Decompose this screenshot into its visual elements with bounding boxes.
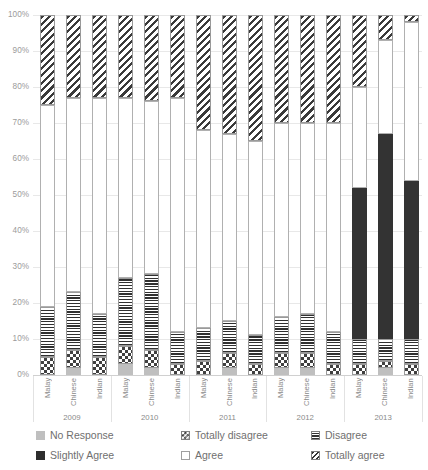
bar-column[interactable] [326, 15, 341, 375]
legend-item[interactable]: Slightly Agree [36, 449, 181, 461]
bar-segment[interactable] [378, 361, 393, 368]
y-axis-tick-label: 30% [0, 263, 29, 271]
bar-column[interactable] [248, 15, 263, 375]
bar-segment[interactable] [118, 98, 133, 278]
group-label: 2010 [111, 413, 189, 422]
bar-segment[interactable] [66, 292, 81, 350]
bar-segment[interactable] [144, 101, 159, 274]
legend-item[interactable]: Agree [181, 449, 311, 461]
bar-segment[interactable] [222, 321, 237, 353]
legend-label: Disagree [325, 429, 367, 441]
bar-segment[interactable] [170, 15, 185, 98]
chart-title [0, 0, 428, 4]
bar-segment[interactable] [378, 134, 393, 339]
bar-column[interactable] [352, 15, 367, 375]
bar-segment[interactable] [144, 15, 159, 101]
bar-segment[interactable] [170, 332, 185, 364]
bar-segment[interactable] [222, 134, 237, 321]
bar-segment[interactable] [196, 328, 211, 360]
bar-column[interactable] [300, 15, 315, 375]
bar-column[interactable] [404, 15, 419, 375]
bar-column[interactable] [196, 15, 211, 375]
bar-column[interactable] [66, 15, 81, 375]
bar-segment[interactable] [378, 15, 393, 40]
bar-column[interactable] [144, 15, 159, 375]
bar-segment[interactable] [170, 364, 185, 375]
bar-segment[interactable] [300, 353, 315, 367]
bar-segment[interactable] [326, 332, 341, 364]
bar-segment[interactable] [300, 368, 315, 375]
bar-segment[interactable] [40, 357, 55, 375]
bar-column[interactable] [378, 15, 393, 375]
bar-column[interactable] [118, 15, 133, 375]
bar-segment[interactable] [404, 22, 419, 180]
bar-segment[interactable] [144, 274, 159, 350]
bar-segment[interactable] [404, 364, 419, 375]
bar-segment[interactable] [378, 40, 393, 134]
bar-segment[interactable] [378, 368, 393, 375]
bar-segment[interactable] [40, 15, 55, 105]
bar-segment[interactable] [274, 15, 289, 123]
bar-segment[interactable] [300, 15, 315, 123]
bar-segment[interactable] [92, 314, 107, 357]
legend-swatch-icon [311, 431, 320, 440]
bar-segment[interactable] [352, 364, 367, 375]
bar-segment[interactable] [118, 364, 133, 375]
bar-segment[interactable] [118, 15, 133, 98]
bar-segment[interactable] [170, 98, 185, 332]
bar-segment[interactable] [92, 15, 107, 98]
bar-segment[interactable] [144, 368, 159, 375]
bar-segment[interactable] [326, 15, 341, 123]
bar-segment[interactable] [222, 368, 237, 375]
bar-segment[interactable] [118, 346, 133, 364]
bar-segment[interactable] [40, 307, 55, 357]
legend-item[interactable]: Totally disagree [181, 429, 311, 441]
bar-segment[interactable] [40, 105, 55, 307]
bar-segment[interactable] [222, 15, 237, 134]
bar-segment[interactable] [222, 353, 237, 367]
legend-swatch-icon [181, 431, 190, 440]
bar-segment[interactable] [248, 335, 263, 364]
bar-segment[interactable] [404, 15, 419, 22]
bar-segment[interactable] [378, 339, 393, 361]
bar-segment[interactable] [274, 317, 289, 353]
bar-segment[interactable] [352, 339, 367, 364]
bar-segment[interactable] [118, 278, 133, 346]
bar-segment[interactable] [196, 130, 211, 328]
bar-segment[interactable] [274, 353, 289, 367]
bar-segment[interactable] [274, 123, 289, 317]
legend-item[interactable]: No Response [36, 429, 181, 441]
bar-column[interactable] [40, 15, 55, 375]
bar-segment[interactable] [248, 364, 263, 375]
bar-segment[interactable] [300, 314, 315, 354]
bar-segment[interactable] [144, 350, 159, 368]
y-axis-tick-label: 50% [0, 191, 29, 199]
bar-segment[interactable] [274, 368, 289, 375]
bar-segment[interactable] [300, 123, 315, 314]
bar-segment[interactable] [326, 364, 341, 375]
legend-item[interactable]: Totally agree [311, 449, 428, 461]
bar-segment[interactable] [66, 350, 81, 368]
bar-segment[interactable] [92, 98, 107, 314]
y-axis-tick-label: 20% [0, 299, 29, 307]
bar-column[interactable] [274, 15, 289, 375]
bar-segment[interactable] [352, 87, 367, 188]
bar-segment[interactable] [66, 15, 81, 98]
bar-segment[interactable] [66, 98, 81, 292]
bar-segment[interactable] [352, 15, 367, 87]
bar-segment[interactable] [196, 361, 211, 375]
bar-segment[interactable] [66, 368, 81, 375]
bar-segment[interactable] [404, 339, 419, 364]
bar-segment[interactable] [404, 181, 419, 339]
bar-segment[interactable] [326, 123, 341, 332]
bar-column[interactable] [92, 15, 107, 375]
bar-segment[interactable] [352, 188, 367, 339]
bar-column[interactable] [170, 15, 185, 375]
bar-segment[interactable] [248, 141, 263, 335]
legend-item[interactable]: Disagree [311, 429, 428, 441]
bar-segment[interactable] [196, 15, 211, 130]
bar-segment[interactable] [92, 357, 107, 375]
legend-swatch-icon [181, 451, 190, 460]
bar-segment[interactable] [248, 15, 263, 141]
bar-column[interactable] [222, 15, 237, 375]
